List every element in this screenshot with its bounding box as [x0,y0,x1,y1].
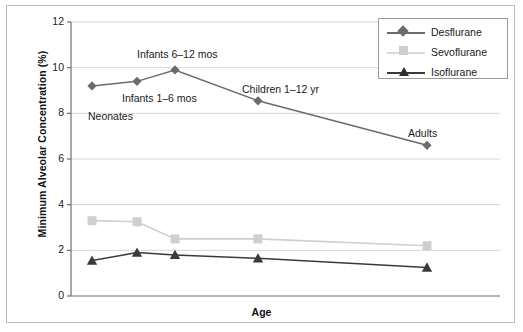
chart-legend: Desflurane Sevoflurane Isoflurane [378,18,508,79]
data-point-marker [422,141,431,150]
legend-label: Desflurane [431,26,482,38]
x-axis-title: Age [0,306,523,318]
y-axis-tick-label: 8 [38,106,64,118]
y-axis-tick-label: 0 [38,289,64,301]
point-annotation: Infants 6–12 mos [137,48,218,60]
point-annotation: Adults [408,127,437,139]
data-point-marker [170,65,179,74]
triangle-marker-icon [399,67,409,76]
point-annotation: Children 1–12 yr [242,83,319,95]
legend-item-desflurane[interactable]: Desflurane [379,23,509,43]
data-point-marker [88,216,97,225]
y-axis-tick-label: 2 [38,243,64,255]
series-line-desflurane [92,70,427,145]
legend-item-sevoflurane[interactable]: Sevoflurane [379,43,509,63]
y-axis-tick-label: 4 [38,198,64,210]
diamond-marker-icon [397,25,408,36]
data-point-marker [132,77,141,86]
data-point-marker [254,234,263,243]
chart-page: Minimum Alveolar Concentration (%) Age 1… [0,0,523,332]
data-point-marker [423,241,432,250]
data-point-marker [171,234,180,243]
y-axis-tick-label: 6 [38,152,64,164]
point-annotation: Infants 1–6 mos [122,92,197,104]
y-axis-title: Minimum Alveolar Concentration (%) [36,14,48,274]
legend-label: Isoflurane [431,66,477,78]
data-point-marker [133,217,142,226]
legend-label: Sevoflurane [431,46,487,58]
square-marker-icon [399,46,408,55]
y-axis-tick-label: 12 [38,15,64,27]
y-axis-tick-label: 10 [38,61,64,73]
legend-item-isoflurane[interactable]: Isoflurane [379,63,509,83]
point-annotation: Neonates [88,110,133,122]
data-point-marker [87,81,96,90]
data-point-marker [253,96,262,105]
